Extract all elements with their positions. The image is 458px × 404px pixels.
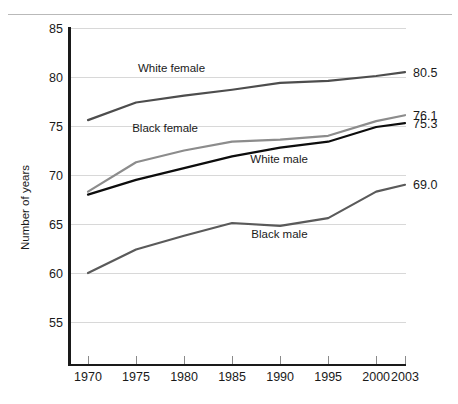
series-annotation-labels-group: White femaleBlack femaleWhite maleBlack … [132, 62, 308, 240]
end-value-labels-group: 80.576.175.369.0 [413, 66, 437, 193]
gridlines-group [70, 29, 406, 323]
x-tick-label: 1980 [170, 370, 198, 384]
end-value-label-white-male: 75.3 [413, 117, 437, 131]
end-value-label-white-female: 80.5 [413, 66, 437, 80]
x-tick-label: 1995 [314, 370, 342, 384]
x-tick-label: 1985 [218, 370, 246, 384]
y-tick-label: 55 [49, 316, 63, 330]
series-label-white-female: White female [138, 62, 205, 74]
series-label-white-male: White male [250, 153, 308, 165]
x-tick-label: 2000 [362, 370, 390, 384]
y-tick-label: 65 [49, 218, 63, 232]
x-tick-label: 1990 [266, 370, 294, 384]
life-expectancy-chart: 85807570656055 1970197519801985199019952… [0, 0, 458, 404]
data-lines-group [88, 72, 405, 273]
x-tick-label: 2003 [391, 370, 419, 384]
series-label-black-male: Black male [251, 228, 307, 240]
y-tick-label: 75 [49, 120, 63, 134]
series-label-black-female: Black female [132, 122, 198, 134]
end-value-label-black-male: 69.0 [413, 178, 437, 192]
x-tick-marks-group [89, 356, 406, 364]
x-tick-label: 1970 [74, 370, 102, 384]
y-tick-label: 60 [49, 267, 63, 281]
x-tick-labels-group: 19701975198019851990199520002003 [74, 370, 419, 384]
y-tick-label: 80 [49, 71, 63, 85]
y-tick-label: 85 [49, 22, 63, 36]
data-line-white-female [88, 72, 405, 120]
chart-plot-area: 85807570656055 1970197519801985199019952… [0, 0, 458, 404]
y-tick-label: 70 [49, 169, 63, 183]
x-tick-label: 1975 [122, 370, 150, 384]
y-tick-labels-group: 85807570656055 [49, 22, 63, 330]
data-line-black-male [88, 185, 405, 273]
y-axis-title: Number of years [19, 165, 31, 250]
